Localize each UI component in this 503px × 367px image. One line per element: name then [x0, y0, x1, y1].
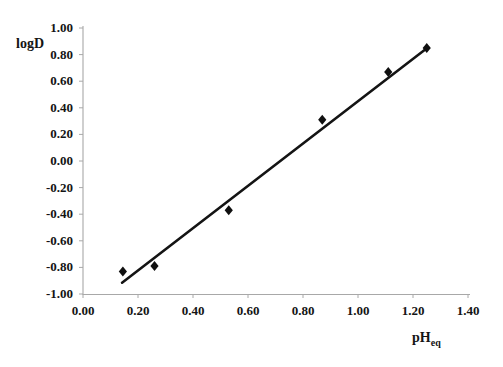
- x-tick-label: 0.00: [60, 303, 106, 319]
- x-tick-label: 0.20: [115, 303, 161, 319]
- y-tick-label: 0.60: [27, 73, 73, 89]
- x-axis-label-base: pH: [412, 330, 431, 345]
- y-tick-label: 0.40: [27, 100, 73, 116]
- x-tick-label: 1.20: [390, 303, 436, 319]
- y-tick-label: -0.60: [27, 233, 73, 249]
- data-point-marker: [225, 205, 233, 215]
- y-tick-label: -0.20: [27, 180, 73, 196]
- x-tick-label: 0.80: [280, 303, 326, 319]
- trendline-segment: [122, 47, 428, 282]
- y-tick-label: -0.80: [27, 259, 73, 275]
- y-tick-label: 0.20: [27, 126, 73, 142]
- y-tick-label: 0.00: [27, 153, 73, 169]
- y-axis-ticks: [79, 28, 83, 294]
- y-tick-label: 0.80: [27, 47, 73, 63]
- trendline: [122, 47, 428, 282]
- x-tick-label: 0.60: [225, 303, 271, 319]
- data-point-marker: [318, 115, 326, 125]
- x-axis-label: pHeq: [412, 330, 441, 348]
- x-tick-label: 0.40: [170, 303, 216, 319]
- x-tick-label: 1.00: [335, 303, 381, 319]
- chart-figure: logD pHeq 1.000.800.600.400.200.00-0.20-…: [0, 0, 503, 367]
- y-tick-label: -0.40: [27, 206, 73, 222]
- y-tick-label: -1.00: [27, 286, 73, 302]
- data-point-marker: [150, 261, 158, 271]
- y-tick-label: 1.00: [27, 20, 73, 36]
- data-points: [119, 43, 431, 276]
- x-tick-label: 1.40: [445, 303, 491, 319]
- x-axis-label-subscript: eq: [431, 337, 441, 348]
- data-point-marker: [119, 266, 127, 276]
